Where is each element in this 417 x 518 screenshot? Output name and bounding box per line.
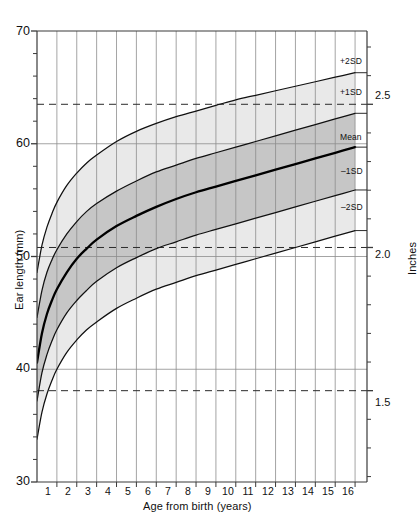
curve-label-minus-2sd: –2SD bbox=[341, 202, 363, 212]
curve-label-mean: Mean bbox=[340, 132, 362, 142]
y-axis-ticks bbox=[31, 31, 37, 482]
y-tick-label-60: 60 bbox=[4, 136, 30, 150]
y-tick-label-30: 30 bbox=[4, 474, 30, 488]
x-tick-label-8: 8 bbox=[180, 485, 196, 497]
x-tick-label-15: 15 bbox=[320, 485, 336, 497]
x-tick-label-10: 10 bbox=[220, 485, 236, 497]
y-tick-label-40: 40 bbox=[4, 361, 30, 375]
y2-tick-label-1-5: 1.5 bbox=[375, 396, 391, 408]
x-axis-title: Age from birth (years) bbox=[143, 500, 252, 512]
x-tick-label-7: 7 bbox=[160, 485, 176, 497]
ear-length-growth-chart: 70 60 50 40 30 Ear length (mm) 2.5 2.0 1… bbox=[0, 0, 417, 518]
x-tick-label-1: 1 bbox=[40, 485, 56, 497]
y2-tick-label-2-0: 2.0 bbox=[375, 248, 391, 260]
y-axis-title: Ear length (mm) bbox=[13, 230, 25, 310]
x-tick-label-14: 14 bbox=[300, 485, 316, 497]
x-tick-label-12: 12 bbox=[260, 485, 276, 497]
x-tick-label-11: 11 bbox=[240, 485, 256, 497]
x-tick-label-4: 4 bbox=[100, 485, 116, 497]
curve-label-plus-1sd: +1SD bbox=[340, 87, 362, 97]
x-tick-label-6: 6 bbox=[140, 485, 156, 497]
chart-canvas bbox=[0, 0, 417, 518]
y2-axis-title: Inches bbox=[406, 242, 417, 275]
y2-tick-label-2-5: 2.5 bbox=[375, 89, 391, 101]
x-tick-label-16: 16 bbox=[340, 485, 356, 497]
y-tick-label-70: 70 bbox=[4, 24, 30, 38]
x-tick-label-5: 5 bbox=[120, 485, 136, 497]
curve-label-minus-1sd: –1SD bbox=[341, 166, 363, 176]
x-tick-label-13: 13 bbox=[280, 485, 296, 497]
curve-label-plus-2sd: +2SD bbox=[340, 56, 362, 66]
x-tick-label-2: 2 bbox=[60, 485, 76, 497]
x-tick-label-3: 3 bbox=[80, 485, 96, 497]
x-tick-label-9: 9 bbox=[200, 485, 216, 497]
y2-axis-ticks bbox=[367, 47, 373, 477]
